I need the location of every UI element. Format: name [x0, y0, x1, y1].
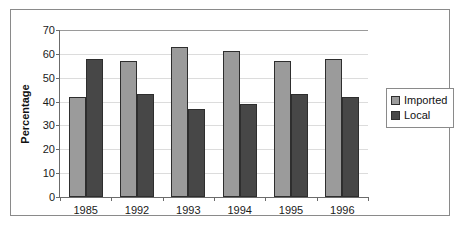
chart-legend: ImportedLocal: [386, 88, 454, 128]
legend-label: Imported: [404, 95, 447, 106]
legend-item-local[interactable]: Local: [391, 108, 447, 123]
x-tick-label-1993: 1993: [176, 205, 200, 216]
bar-group: [265, 30, 316, 197]
bar-group: [163, 30, 214, 197]
x-tick-label-1994: 1994: [227, 205, 251, 216]
x-tick-mark: [163, 197, 164, 201]
plot-area: 010203040506070 198519921993199419951996: [59, 30, 368, 198]
bar-imported-1985[interactable]: [69, 97, 86, 197]
x-tick-label-1995: 1995: [279, 205, 303, 216]
bar-local-1993[interactable]: [188, 109, 205, 197]
x-tick-mark: [265, 197, 266, 201]
x-tick-mark: [214, 197, 215, 201]
bar-local-1985[interactable]: [86, 59, 103, 197]
bar-group: [214, 30, 265, 197]
bar-local-1994[interactable]: [240, 104, 257, 197]
bar-imported-1993[interactable]: [171, 47, 188, 197]
legend-swatch-imported: [391, 96, 400, 105]
x-tick-mark: [111, 197, 112, 201]
bars-layer: [60, 30, 368, 197]
y-tick-label: 10: [43, 168, 55, 179]
chart-frame: Percentage 010203040506070 1985199219931…: [10, 9, 450, 216]
bar-local-1996[interactable]: [342, 97, 359, 197]
bar-imported-1992[interactable]: [120, 61, 137, 197]
bar-local-1995[interactable]: [291, 94, 308, 197]
x-tick-mark: [317, 197, 318, 201]
bar-imported-1994[interactable]: [223, 51, 240, 197]
bar-group: [60, 30, 111, 197]
bar-local-1992[interactable]: [137, 94, 154, 197]
y-tick-label: 20: [43, 144, 55, 155]
bar-imported-1996[interactable]: [325, 59, 342, 197]
x-tick-mark: [60, 197, 61, 201]
x-tick-mark: [368, 197, 369, 201]
y-tick-label: 70: [43, 25, 55, 36]
y-tick-label: 30: [43, 120, 55, 131]
bar-group: [111, 30, 162, 197]
legend-label: Local: [404, 110, 430, 121]
x-tick-label-1985: 1985: [73, 205, 97, 216]
legend-swatch-local: [391, 111, 400, 120]
y-tick-label: 40: [43, 96, 55, 107]
x-tick-label-1992: 1992: [125, 205, 149, 216]
y-tick-label: 50: [43, 72, 55, 83]
y-axis-title-label: Percentage: [19, 84, 31, 143]
legend-item-imported[interactable]: Imported: [391, 93, 447, 108]
y-tick-label: 60: [43, 48, 55, 59]
x-tick-label-1996: 1996: [330, 205, 354, 216]
y-tick-label: 0: [49, 192, 55, 203]
y-axis-title: Percentage: [17, 30, 33, 197]
bar-imported-1995[interactable]: [274, 61, 291, 197]
bar-group: [317, 30, 368, 197]
